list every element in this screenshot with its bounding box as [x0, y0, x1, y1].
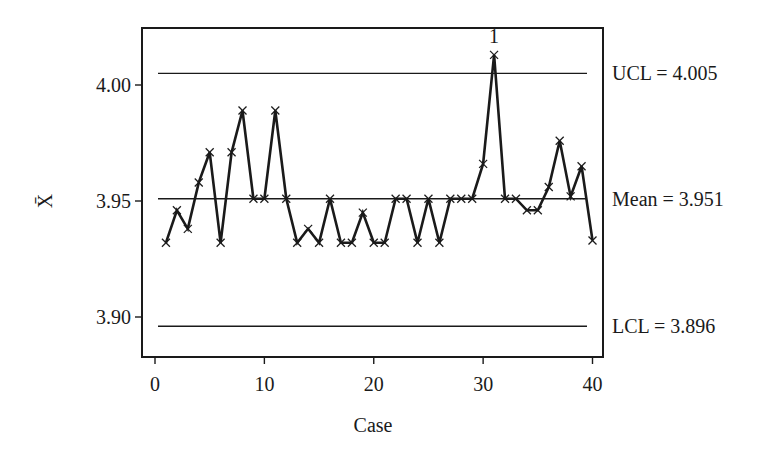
- y-tick-label: 3.95: [96, 190, 131, 212]
- x-tick-label: 10: [254, 373, 274, 395]
- lcl-label: LCL = 3.896: [612, 315, 715, 337]
- annotations: 1: [489, 25, 499, 47]
- plot-frame: [142, 28, 603, 357]
- plot-border: [142, 28, 603, 357]
- ucl-label: UCL = 4.005: [612, 62, 718, 84]
- control-chart: UCL = 4.005Mean = 3.951LCL = 3.896 1 010…: [0, 0, 772, 455]
- series-line: [166, 55, 593, 243]
- data-point-marker: [304, 225, 312, 233]
- out-of-control-annotation: 1: [489, 25, 499, 47]
- x-tick-label: 40: [583, 373, 603, 395]
- control-lines: UCL = 4.005Mean = 3.951LCL = 3.896: [158, 62, 724, 337]
- y-axis: 3.903.954.00: [96, 74, 142, 328]
- data-series: [162, 51, 597, 247]
- x-axis-label: Case: [354, 414, 393, 436]
- mean-label: Mean = 3.951: [612, 188, 724, 210]
- y-tick-label: 3.90: [96, 306, 131, 328]
- y-tick-label: 4.00: [96, 74, 131, 96]
- x-tick-label: 0: [150, 373, 160, 395]
- y-axis-label: X̄: [34, 193, 56, 208]
- x-tick-label: 20: [364, 373, 384, 395]
- x-axis: 010203040: [150, 357, 603, 395]
- x-tick-label: 30: [473, 373, 493, 395]
